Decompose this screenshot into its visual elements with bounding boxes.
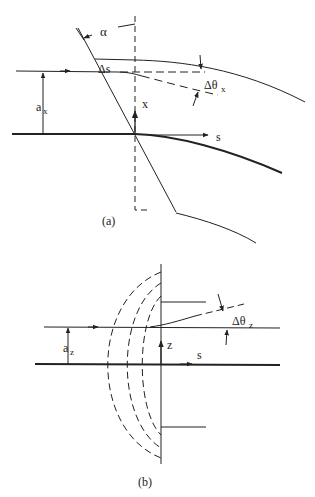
label-a-z: a xyxy=(63,341,69,355)
label-a-x: a xyxy=(36,100,42,114)
label-s-axis: s xyxy=(216,130,221,144)
caption-a: (a) xyxy=(102,214,115,228)
label-alpha: α xyxy=(100,24,107,39)
label-delta-theta-z-sub: z xyxy=(249,320,253,330)
dtheta-z-arrow-bottom xyxy=(226,330,227,345)
label-delta-theta-x: Δθ xyxy=(204,78,218,92)
lower-trajectory xyxy=(176,213,256,243)
dtheta-x-arrow-bottom xyxy=(193,92,198,106)
fringe-arc-middle xyxy=(127,283,161,448)
slanted-edge-line xyxy=(78,28,176,212)
panel-b xyxy=(35,264,280,464)
upper-trajectory xyxy=(95,59,305,102)
alpha-arc-left-leg xyxy=(76,28,84,40)
alpha-bracket-right xyxy=(118,24,135,27)
reference-orbit xyxy=(12,134,282,173)
label-s-axis-b: s xyxy=(197,348,202,362)
label-delta-s: Δs xyxy=(98,62,111,76)
deflected-curve xyxy=(118,72,142,76)
label-a-x-sub: x xyxy=(43,106,48,116)
deflected-curve-b xyxy=(150,316,195,327)
label-z-axis: z xyxy=(167,338,172,352)
panel-a-labels: α Δs Δθ x a x x s (a) xyxy=(36,24,226,228)
label-a-z-sub: z xyxy=(70,347,74,357)
diagram-canvas: α Δs Δθ x a x x s (a) Δθ xyxy=(0,0,315,497)
panel-b-labels: Δθ z a z z s (b) xyxy=(63,314,253,489)
reference-orbit-b xyxy=(35,364,280,365)
alpha-bracket xyxy=(84,35,92,38)
panel-a xyxy=(12,16,305,243)
label-delta-theta-z: Δθ xyxy=(232,314,246,328)
dtheta-z-arrow-top xyxy=(218,294,223,311)
vertical-dashed-line xyxy=(135,16,148,210)
label-delta-theta-x-sub: x xyxy=(221,84,226,94)
label-x-axis: x xyxy=(142,97,148,111)
caption-b: (b) xyxy=(138,475,152,489)
